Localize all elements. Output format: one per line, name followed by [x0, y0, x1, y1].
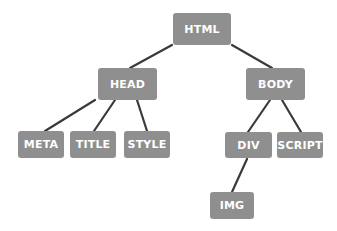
- edge-html-head: [130, 45, 172, 68]
- edge-body-script: [282, 100, 301, 132]
- edge-div-img: [232, 159, 247, 192]
- edge-html-body: [232, 45, 272, 68]
- node-meta: META: [18, 131, 64, 158]
- node-html: HTML: [173, 13, 231, 45]
- edge-head-title: [94, 100, 115, 131]
- node-body: BODY: [246, 68, 305, 100]
- edge-head-meta: [45, 100, 95, 131]
- edge-head-style: [137, 100, 147, 131]
- node-style: STYLE: [124, 131, 170, 158]
- edge-body-div: [248, 100, 270, 132]
- dom-tree-diagram: HTML HEAD BODY META TITLE STYLE DIV SCRI…: [0, 0, 337, 231]
- node-head: HEAD: [98, 68, 157, 100]
- tree-edges: [0, 0, 337, 231]
- node-img: IMG: [210, 192, 254, 219]
- node-script: SCRIPT: [277, 132, 323, 158]
- node-title: TITLE: [70, 131, 116, 158]
- node-div: DIV: [225, 132, 272, 158]
